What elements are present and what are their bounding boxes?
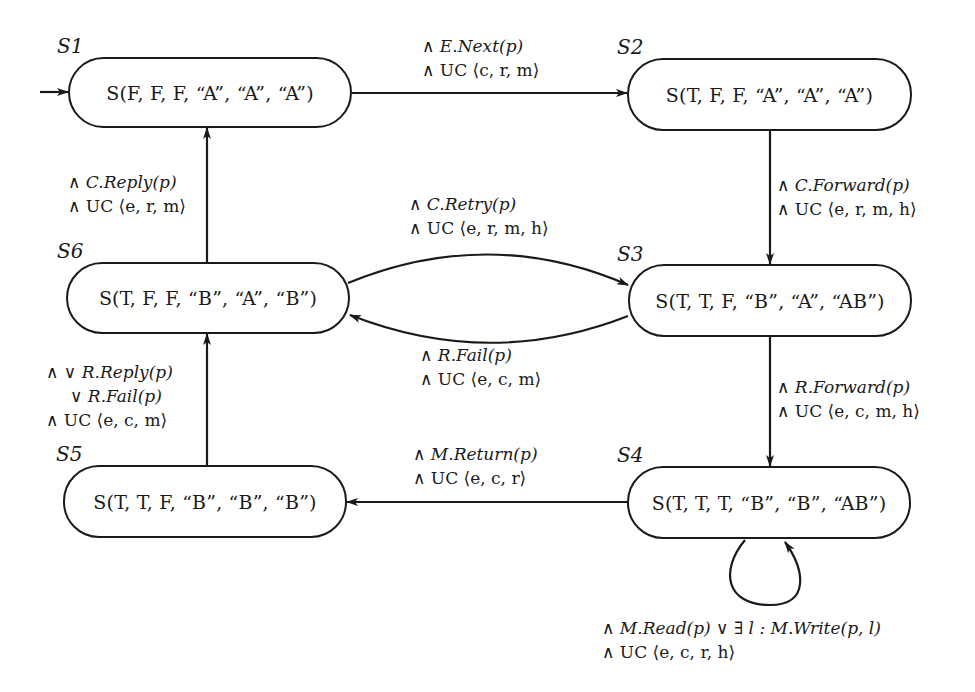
label-s4-s5: ∧ M.Return(p) ∧ UC ⟨e, c, r⟩ <box>413 442 538 490</box>
state-s5: S(T, T, F, “B”, “B”, “B”) <box>63 465 347 538</box>
state-id-s1: S1 <box>57 34 83 58</box>
label-s3-s6: ∧ R.Fail(p) ∧ UC ⟨e, c, m⟩ <box>420 343 541 391</box>
label-s6-s1: ∧ C.Reply(p) ∧ UC ⟨e, r, m⟩ <box>68 170 186 218</box>
state-s6: S(T, F, F, “B”, “A”, “B”) <box>66 262 350 334</box>
state-s5-label: S(T, T, F, “B”, “B”, “B”) <box>93 491 316 513</box>
state-id-s4: S4 <box>617 443 643 467</box>
label-s4-self: ∧ M.Read(p) ∨ ∃ l : M.Write(p, l) ∧ UC ⟨… <box>602 616 881 664</box>
state-s3-label: S(T, T, F, “B”, “A”, “AB”) <box>655 290 884 312</box>
edge-s3-s6 <box>350 315 628 343</box>
state-s1-label: S(F, F, F, “A”, “A”, “A”) <box>106 82 314 104</box>
state-s4: S(T, T, T, “B”, “B”, “AB”) <box>627 466 911 539</box>
label-s1-s2: ∧ E.Next(p) ∧ UC ⟨c, r, m⟩ <box>422 34 539 82</box>
state-id-s6: S6 <box>57 239 83 263</box>
state-s4-label: S(T, T, T, “B”, “B”, “AB”) <box>652 492 887 514</box>
label-s6-s3: ∧ C.Retry(p) ∧ UC ⟨e, r, m, h⟩ <box>409 192 549 240</box>
label-s5-s6: ∧ ∨ R.Reply(p) ∨ R.Fail(p) ∧ UC ⟨e, c, m… <box>46 360 173 432</box>
state-diagram: S1 S(F, F, F, “A”, “A”, “A”) S2 S(T, F, … <box>0 0 975 692</box>
state-id-s5: S5 <box>56 442 82 466</box>
state-s1: S(F, F, F, “A”, “A”, “A”) <box>68 57 352 128</box>
state-s2: S(T, F, F, “A”, “A”, “A”) <box>627 58 912 131</box>
state-s2-label: S(T, F, F, “A”, “A”, “A”) <box>666 84 873 106</box>
edge-s6-s3 <box>348 254 628 285</box>
label-s2-s3: ∧ C.Forward(p) ∧ UC ⟨e, r, m, h⟩ <box>777 173 917 221</box>
state-s3: S(T, T, F, “B”, “A”, “AB”) <box>628 264 912 337</box>
state-id-s3: S3 <box>617 242 643 266</box>
state-s6-label: S(T, F, F, “B”, “A”, “B”) <box>99 287 317 309</box>
label-s3-s4: ∧ R.Forward(p) ∧ UC ⟨e, c, m, h⟩ <box>777 375 920 423</box>
state-id-s2: S2 <box>617 35 643 59</box>
edge-s4-self <box>730 540 800 605</box>
